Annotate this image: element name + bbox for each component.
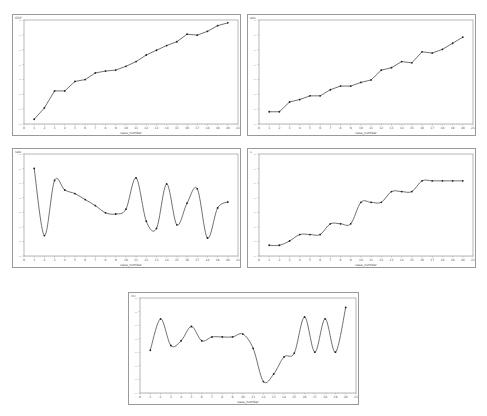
x-axis-label: case_number bbox=[120, 263, 142, 267]
y-axis-label: s bbox=[250, 150, 252, 154]
data-point-marker bbox=[252, 347, 254, 349]
data-point-marker bbox=[74, 81, 76, 83]
data-point-marker bbox=[350, 85, 352, 87]
svg-text:—: — bbox=[254, 107, 257, 111]
svg-text:20: 20 bbox=[226, 258, 230, 262]
data-point-marker bbox=[156, 49, 158, 51]
data-point-marker bbox=[411, 62, 413, 64]
svg-text:—: — bbox=[254, 48, 257, 52]
svg-text:—: — bbox=[19, 181, 22, 185]
line-chart: inv————————01234567891011121314151617181… bbox=[129, 293, 360, 406]
svg-text:13: 13 bbox=[155, 258, 159, 262]
data-point-marker bbox=[278, 111, 280, 113]
data-point-marker bbox=[268, 111, 270, 113]
svg-text:9: 9 bbox=[350, 126, 352, 130]
data-point-marker bbox=[289, 240, 291, 242]
svg-text:—: — bbox=[254, 196, 257, 200]
data-point-marker bbox=[105, 212, 107, 214]
svg-text:5: 5 bbox=[309, 126, 311, 130]
data-point-marker bbox=[33, 118, 35, 120]
svg-text:20: 20 bbox=[344, 395, 348, 399]
data-point-marker bbox=[401, 61, 403, 63]
svg-text:13: 13 bbox=[272, 395, 276, 399]
svg-text:—: — bbox=[19, 239, 22, 243]
svg-text:19: 19 bbox=[216, 126, 220, 130]
data-point-marker bbox=[170, 345, 172, 347]
data-point-marker bbox=[421, 180, 423, 182]
svg-text:—: — bbox=[19, 196, 22, 200]
svg-text:—: — bbox=[135, 310, 138, 314]
svg-text:—: — bbox=[254, 254, 257, 258]
svg-text:—: — bbox=[135, 377, 138, 381]
svg-text:17: 17 bbox=[430, 126, 434, 130]
data-point-marker bbox=[217, 25, 219, 27]
svg-text:18: 18 bbox=[441, 258, 445, 262]
svg-text:—: — bbox=[19, 254, 22, 258]
data-point-marker bbox=[166, 45, 168, 47]
svg-text:2: 2 bbox=[43, 126, 45, 130]
data-point-marker bbox=[166, 183, 168, 185]
svg-text:17: 17 bbox=[195, 126, 199, 130]
svg-text:1: 1 bbox=[268, 258, 270, 262]
svg-text:2: 2 bbox=[160, 395, 162, 399]
x-axis-label: case_number bbox=[237, 400, 259, 404]
svg-text:—: — bbox=[254, 18, 257, 22]
data-point-marker bbox=[176, 224, 178, 226]
data-point-marker bbox=[329, 89, 331, 91]
svg-text:9: 9 bbox=[350, 258, 352, 262]
data-point-marker bbox=[135, 61, 137, 63]
svg-text:8: 8 bbox=[340, 258, 342, 262]
data-point-marker bbox=[360, 201, 362, 203]
svg-text:5: 5 bbox=[74, 126, 76, 130]
svg-text:6: 6 bbox=[319, 258, 321, 262]
svg-text:11: 11 bbox=[134, 126, 138, 130]
data-point-marker bbox=[196, 188, 198, 190]
svg-text:7: 7 bbox=[94, 126, 96, 130]
data-point-marker bbox=[319, 95, 321, 97]
svg-text:12: 12 bbox=[144, 258, 148, 262]
chart-panel-3: rate————————0123456789101112131415161718… bbox=[12, 148, 241, 268]
data-point-marker bbox=[201, 340, 203, 342]
data-point-marker bbox=[145, 220, 147, 222]
svg-text:—: — bbox=[19, 122, 22, 126]
data-line bbox=[269, 180, 463, 246]
svg-text:—: — bbox=[19, 33, 22, 37]
svg-text:10: 10 bbox=[124, 258, 128, 262]
svg-text:—: — bbox=[135, 337, 138, 341]
data-point-marker bbox=[391, 191, 393, 193]
data-point-marker bbox=[149, 349, 151, 351]
svg-text:2: 2 bbox=[278, 258, 280, 262]
svg-text:15: 15 bbox=[292, 395, 296, 399]
svg-text:—: — bbox=[254, 152, 257, 156]
data-point-marker bbox=[391, 67, 393, 69]
svg-text:4: 4 bbox=[299, 258, 301, 262]
svg-text:5: 5 bbox=[74, 258, 76, 262]
svg-text:3: 3 bbox=[289, 258, 291, 262]
svg-text:—: — bbox=[254, 122, 257, 126]
data-point-marker bbox=[299, 99, 301, 101]
data-point-marker bbox=[370, 79, 372, 81]
svg-text:4: 4 bbox=[64, 126, 66, 130]
svg-text:—: — bbox=[19, 225, 22, 229]
chart-panel-1: GDP————————01234567891011121314151617181… bbox=[12, 14, 241, 136]
data-point-marker bbox=[43, 235, 45, 237]
svg-text:7: 7 bbox=[329, 258, 331, 262]
svg-text:8: 8 bbox=[221, 395, 223, 399]
svg-text:—: — bbox=[19, 107, 22, 111]
svg-text:17: 17 bbox=[195, 258, 199, 262]
data-point-marker bbox=[401, 191, 403, 193]
svg-text:6: 6 bbox=[319, 126, 321, 130]
svg-text:3: 3 bbox=[170, 395, 172, 399]
data-point-marker bbox=[340, 223, 342, 225]
svg-text:5: 5 bbox=[190, 395, 192, 399]
data-point-marker bbox=[299, 234, 301, 236]
svg-text:11: 11 bbox=[251, 395, 255, 399]
svg-text:1: 1 bbox=[33, 126, 35, 130]
data-point-marker bbox=[94, 205, 96, 207]
data-point-marker bbox=[242, 333, 244, 335]
data-point-marker bbox=[221, 336, 223, 338]
svg-text:1: 1 bbox=[33, 258, 35, 262]
svg-text:—: — bbox=[254, 181, 257, 185]
svg-text:—: — bbox=[135, 296, 138, 300]
svg-text:0: 0 bbox=[258, 126, 260, 130]
